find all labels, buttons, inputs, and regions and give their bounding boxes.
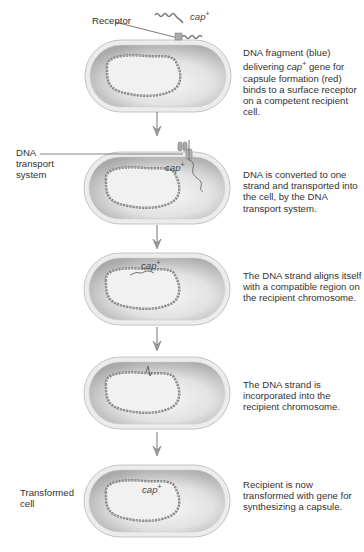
chromosome	[107, 55, 180, 95]
cap-gene-label: cap+	[142, 483, 162, 495]
cell-step-1	[85, 40, 231, 112]
arrow-icon	[153, 327, 161, 351]
cap-gene-label: cap+	[190, 10, 210, 22]
cell-step-4	[84, 357, 230, 429]
cap-superscript: +	[205, 10, 209, 17]
step-2-description: DNA is converted to one strand and trans…	[243, 169, 364, 214]
arrow-icon	[153, 112, 161, 136]
cell-step-2	[84, 152, 230, 224]
arrow-icon	[153, 225, 161, 249]
arrow-icon	[153, 432, 161, 456]
transformed-cell-label: Transformed cell	[20, 487, 74, 509]
step-5-description: Recipient is now transformed with gene f…	[243, 479, 364, 513]
cap-gene-label: cap+	[141, 259, 161, 271]
cap-text: cap	[165, 162, 180, 173]
receptor-label: Receptor	[92, 15, 131, 26]
dna-fragment-icon	[155, 14, 183, 24]
step-4-description: The DNA strand is incorporated into the …	[243, 379, 364, 413]
label-line: cell	[20, 498, 74, 509]
dna-fragment-red-icon	[182, 36, 202, 39]
chromosome	[106, 167, 179, 207]
transport-protein-icon	[178, 142, 182, 151]
cap-text: cap	[142, 484, 157, 495]
cap-superscript: +	[156, 259, 160, 266]
receptor-icon	[175, 33, 182, 40]
cap-superscript: +	[157, 483, 161, 490]
desc-italic-cap: cap	[287, 61, 302, 72]
dna-transport-system-label: DNA transport system	[16, 147, 54, 181]
label-line: Transformed	[20, 487, 74, 498]
step-1-description: DNA fragment (blue) delivering cap+ gene…	[243, 47, 364, 117]
cap-text: cap	[190, 11, 205, 22]
label-line: DNA	[16, 147, 54, 158]
step-3-description: The DNA strand aligns itself with a comp…	[243, 270, 364, 304]
cell-step-5	[84, 465, 230, 537]
label-line: transport	[16, 158, 54, 169]
cap-text: cap	[141, 260, 156, 271]
cap-superscript: +	[180, 161, 184, 168]
label-line: system	[16, 169, 54, 180]
cap-gene-label: cap+	[165, 161, 185, 173]
chromosome	[106, 372, 179, 412]
chromosome	[106, 268, 179, 308]
